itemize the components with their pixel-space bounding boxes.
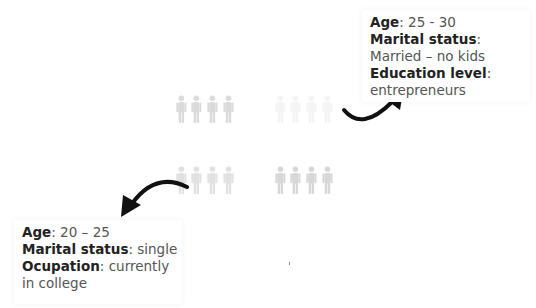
education-label: Education level — [370, 65, 487, 81]
people-icon — [275, 166, 335, 196]
separator: : — [476, 31, 481, 47]
age-label: Age — [370, 14, 399, 30]
age-value: : 20 – 25 — [51, 224, 110, 240]
people-group-top-right — [275, 95, 335, 129]
occupation-label: Ocupation — [22, 258, 100, 274]
people-group-top-left — [176, 95, 236, 129]
curved-arrow-down-left-icon — [115, 175, 195, 225]
persona-card-top: Age: 25 - 30 Marital status: Married – n… — [362, 10, 530, 102]
education-value: entrepreneurs — [370, 82, 530, 99]
age-label: Age — [22, 224, 51, 240]
marital-label: Marital status — [22, 241, 128, 257]
dot-mark — [289, 262, 290, 265]
people-icon — [176, 95, 236, 125]
age-value: : 25 - 30 — [399, 14, 456, 30]
persona-card-bottom: Age: 20 – 25 Marital status: single Ocup… — [14, 220, 182, 304]
people-group-bottom-right — [275, 166, 335, 200]
marital-value: Married – no kids — [370, 48, 530, 65]
marital-value: : single — [128, 241, 177, 257]
occupation-value: : currently — [100, 258, 169, 274]
people-icon — [275, 95, 335, 125]
marital-label: Marital status — [370, 31, 476, 47]
separator: : — [487, 65, 492, 81]
occupation-value-cont: in college — [22, 275, 182, 292]
